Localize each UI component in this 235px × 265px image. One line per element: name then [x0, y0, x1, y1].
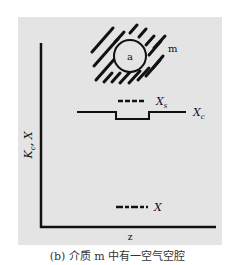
cavity-label: a: [127, 51, 133, 62]
xs-label: Xs: [155, 95, 168, 110]
x-label: X: [153, 201, 163, 214]
xc-line: [77, 112, 186, 119]
svg-text:Kc, X: Kc, X: [22, 130, 37, 159]
figure-caption: (b) 介质 m 中有一空气空腔: [0, 247, 235, 263]
diagram-canvas: a m Xs Xc X z Kc, X: [0, 0, 235, 265]
y-axis-label: Kc, X: [22, 130, 37, 159]
xc-label: Xc: [192, 106, 205, 121]
medium-label: m: [168, 43, 178, 54]
x-axis-label: z: [128, 232, 133, 242]
